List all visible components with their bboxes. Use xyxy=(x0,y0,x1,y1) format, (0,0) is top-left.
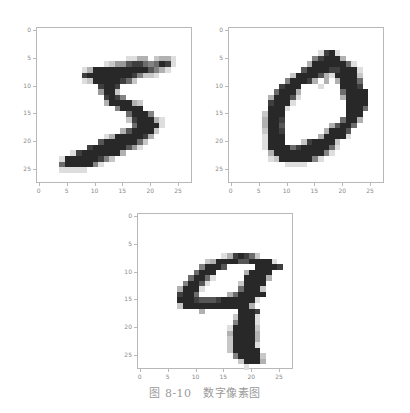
plot-frame xyxy=(137,213,293,369)
y-tick-label: 0 xyxy=(209,27,223,33)
y-tick-label: 5 xyxy=(118,241,132,247)
x-tick-mark xyxy=(67,183,68,186)
y-tick-label: 15 xyxy=(209,110,223,116)
y-tick-mark xyxy=(225,58,228,59)
x-tick-mark xyxy=(370,183,371,186)
y-tick-mark xyxy=(33,58,36,59)
pixel-grid xyxy=(138,214,294,370)
x-tick-label: 10 xyxy=(192,374,200,380)
x-tick-label: 10 xyxy=(91,188,99,194)
x-tick-label: 15 xyxy=(311,188,319,194)
x-tick-label: 0 xyxy=(138,374,142,380)
y-tick-label: 10 xyxy=(118,269,132,275)
x-tick-mark xyxy=(231,183,232,186)
y-tick-label: 15 xyxy=(17,110,31,116)
x-tick-label: 20 xyxy=(247,374,255,380)
y-tick-label: 25 xyxy=(17,166,31,172)
y-tick-mark xyxy=(33,113,36,114)
x-tick-mark xyxy=(342,183,343,186)
y-tick-mark xyxy=(225,169,228,170)
y-tick-mark xyxy=(33,169,36,170)
x-tick-label: 5 xyxy=(65,188,69,194)
y-tick-mark xyxy=(134,355,137,356)
y-tick-label: 0 xyxy=(118,213,132,219)
x-tick-label: 20 xyxy=(146,188,154,194)
y-tick-mark xyxy=(134,216,137,217)
y-tick-label: 0 xyxy=(17,27,31,33)
y-tick-mark xyxy=(225,113,228,114)
x-tick-mark xyxy=(178,183,179,186)
y-tick-mark xyxy=(33,30,36,31)
y-tick-label: 20 xyxy=(209,138,223,144)
x-tick-label: 0 xyxy=(229,188,233,194)
x-tick-label: 15 xyxy=(119,188,127,194)
y-tick-label: 25 xyxy=(118,352,132,358)
pixel-grid xyxy=(229,28,385,184)
x-tick-mark xyxy=(279,369,280,372)
x-tick-label: 15 xyxy=(220,374,228,380)
x-tick-mark xyxy=(140,369,141,372)
x-tick-label: 25 xyxy=(366,188,374,194)
x-tick-mark xyxy=(122,183,123,186)
x-tick-mark xyxy=(287,183,288,186)
plot-frame xyxy=(228,27,384,183)
y-tick-mark xyxy=(134,327,137,328)
x-tick-mark xyxy=(223,369,224,372)
y-tick-label: 20 xyxy=(17,138,31,144)
pixel-grid xyxy=(37,28,193,184)
y-tick-mark xyxy=(134,272,137,273)
y-tick-label: 10 xyxy=(209,83,223,89)
y-tick-mark xyxy=(225,141,228,142)
y-tick-mark xyxy=(134,244,137,245)
y-tick-mark xyxy=(225,86,228,87)
y-tick-mark xyxy=(33,86,36,87)
x-tick-label: 5 xyxy=(257,188,261,194)
y-tick-label: 10 xyxy=(17,83,31,89)
x-tick-mark xyxy=(95,183,96,186)
y-tick-label: 20 xyxy=(118,324,132,330)
y-tick-label: 25 xyxy=(209,166,223,172)
x-tick-mark xyxy=(150,183,151,186)
x-tick-mark xyxy=(168,369,169,372)
y-tick-mark xyxy=(134,299,137,300)
x-tick-label: 25 xyxy=(275,374,283,380)
x-tick-label: 0 xyxy=(37,188,41,194)
x-tick-mark xyxy=(314,183,315,186)
y-tick-mark xyxy=(33,141,36,142)
x-tick-mark xyxy=(259,183,260,186)
x-tick-mark xyxy=(39,183,40,186)
plot-frame xyxy=(36,27,192,183)
x-tick-label: 5 xyxy=(166,374,170,380)
x-tick-label: 25 xyxy=(174,188,182,194)
y-tick-label: 15 xyxy=(118,296,132,302)
y-tick-label: 5 xyxy=(17,55,31,61)
x-tick-label: 10 xyxy=(283,188,291,194)
x-tick-mark xyxy=(251,369,252,372)
y-tick-label: 5 xyxy=(209,55,223,61)
x-tick-label: 20 xyxy=(338,188,346,194)
x-tick-mark xyxy=(196,369,197,372)
y-tick-mark xyxy=(225,30,228,31)
figure-caption: 图 8-10 数字像素图 xyxy=(0,384,410,400)
